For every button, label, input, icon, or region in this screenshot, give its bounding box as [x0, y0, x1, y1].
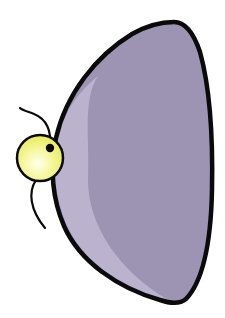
- illustration-canvas: [0, 0, 225, 318]
- bulb-icon: [17, 135, 63, 181]
- tail-line: [31, 180, 45, 228]
- illustration-svg: [0, 0, 225, 318]
- dot-marker: [46, 144, 54, 152]
